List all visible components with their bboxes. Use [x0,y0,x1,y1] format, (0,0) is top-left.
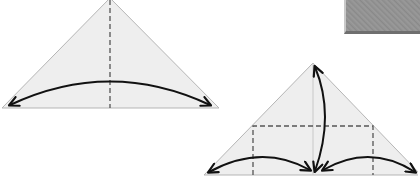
step-1-triangle-group [2,0,219,108]
step-2-triangle-group [204,63,418,175]
